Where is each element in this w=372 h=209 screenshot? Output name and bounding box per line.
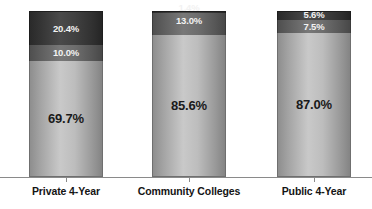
bar-segment-top-label: 20.4% [53, 24, 79, 34]
bar-column-private-4-year[interactable]: 20.4% 10.0% 69.7% [29, 11, 103, 177]
x-axis-label-community-colleges: Community Colleges [129, 185, 249, 197]
bar-segment-middle[interactable]: 7.5% [277, 20, 351, 32]
bar-segment-middle[interactable]: 10.0% [29, 45, 103, 62]
bar-segment-bottom-label: 85.6% [171, 99, 207, 112]
bar-segment-top-label: 5.6% [278, 10, 350, 20]
bar-segment-bottom-label: 69.7% [48, 112, 84, 125]
bar-segment-top[interactable]: 5.6% [277, 11, 351, 20]
x-axis-label-private-4-year: Private 4-Year [6, 185, 126, 197]
bar-segment-bottom[interactable]: 69.7% [29, 61, 103, 177]
bar-segment-top[interactable]: 20.4% [29, 11, 103, 45]
x-axis-tick [66, 178, 67, 182]
bar-segment-bottom[interactable]: 85.6% [152, 35, 226, 177]
bar-column-community-colleges[interactable]: 1.4% 13.0% 85.6% [152, 11, 226, 177]
bar-segment-bottom-label: 87.0% [296, 98, 332, 111]
x-axis-tick [314, 178, 315, 182]
x-axis-label-public-4-year: Public 4-Year [254, 185, 372, 197]
bar-segment-bottom[interactable]: 87.0% [277, 33, 351, 177]
bar-column-public-4-year[interactable]: 5.6% 7.5% 87.0% [277, 11, 351, 177]
bar-segment-middle-label: 7.5% [304, 22, 325, 32]
bar-segment-middle[interactable]: 13.0% [152, 13, 226, 35]
x-axis-tick [189, 178, 190, 182]
bar-segment-top-label: 1.4% [153, 3, 225, 13]
bar-segment-middle-label: 10.0% [53, 48, 79, 58]
stacked-bar-chart: 20.4% 10.0% 69.7% 1.4% 13.0% 85.6% 5 [0, 0, 372, 209]
x-axis-line [0, 177, 372, 178]
bar-segment-middle-label: 13.0% [176, 16, 202, 26]
plot-area: 20.4% 10.0% 69.7% 1.4% 13.0% 85.6% 5 [0, 11, 372, 177]
x-axis-labels: Private 4-Year Community Colleges Public… [0, 185, 372, 205]
